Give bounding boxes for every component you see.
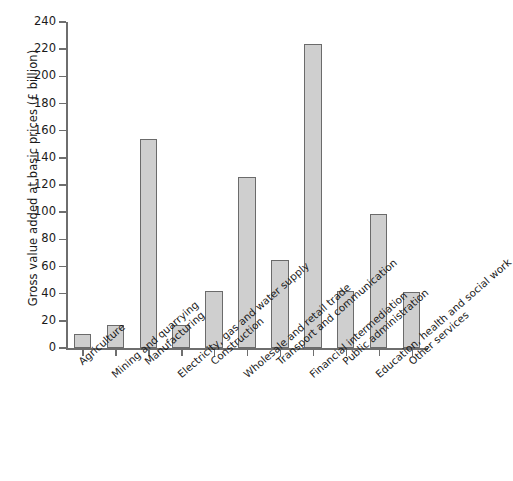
y-tick-label: 20 (22, 313, 56, 327)
y-tick-mark (59, 320, 66, 321)
y-tick-mark (59, 239, 66, 240)
y-tick-mark (59, 211, 66, 212)
y-tick-mark (59, 184, 66, 185)
y-tick-mark (59, 76, 66, 77)
y-tick-mark (59, 266, 66, 267)
y-tick-label: 0 (22, 340, 56, 354)
y-tick-mark (59, 293, 66, 294)
y-tick-label: 200 (22, 68, 56, 82)
y-tick-mark (59, 130, 66, 131)
y-tick-label: 180 (22, 96, 56, 110)
y-tick-mark (59, 347, 66, 348)
y-tick-label: 240 (22, 14, 56, 28)
y-tick-label: 100 (22, 204, 56, 218)
y-tick-mark (59, 157, 66, 158)
y-tick-mark (59, 103, 66, 104)
y-tick-label: 80 (22, 231, 56, 245)
y-tick-label: 60 (22, 259, 56, 273)
y-tick-label: 120 (22, 177, 56, 191)
x-tick-mark (379, 350, 380, 356)
y-tick-label: 160 (22, 123, 56, 137)
bar (140, 139, 158, 348)
y-tick-label: 40 (22, 286, 56, 300)
y-tick-mark (59, 48, 66, 49)
y-tick-label: 140 (22, 150, 56, 164)
y-tick-mark (59, 21, 66, 22)
x-tick-mark (115, 350, 116, 356)
y-tick-label: 220 (22, 41, 56, 55)
x-tick-mark (313, 350, 314, 356)
x-tick-mark (181, 350, 182, 356)
plot-area (66, 22, 428, 348)
x-tick-mark (247, 350, 248, 356)
